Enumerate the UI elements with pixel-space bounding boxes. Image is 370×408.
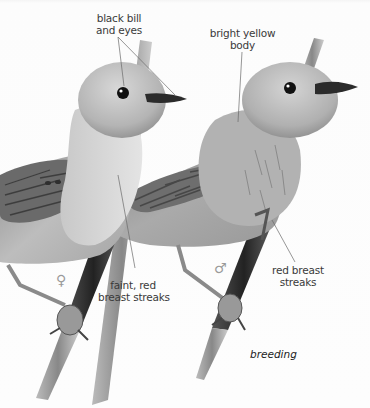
label-line: bright yellow [205, 27, 280, 39]
label-bill-eyes: black bill and eyes [94, 12, 144, 36]
label-body: bright yellow body [205, 27, 280, 51]
label-line: black bill [94, 12, 144, 24]
label-line: red breast [268, 264, 328, 276]
figure-caption: breeding [250, 348, 297, 360]
label-line: faint, red [98, 279, 168, 291]
label-female-breast: faint, red breast streaks [98, 279, 168, 303]
male-symbol-icon: ♂ [214, 260, 227, 276]
label-line: streaks [268, 276, 328, 288]
label-line: body [205, 39, 280, 51]
field-guide-figure: black bill and eyes bright yellow body f… [0, 0, 370, 408]
label-male-breast: red breast streaks [268, 264, 328, 288]
bird-illustration [0, 0, 370, 408]
label-line: and eyes [94, 24, 144, 36]
label-line: breast streaks [98, 291, 168, 303]
female-symbol-icon: ♀ [56, 272, 66, 288]
